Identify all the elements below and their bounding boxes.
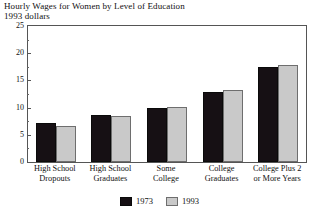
bar-group [250, 26, 306, 162]
legend-item-1973[interactable]: 1973 [120, 197, 153, 206]
legend-label: 1973 [136, 197, 153, 206]
bar-1993-1 [56, 126, 76, 162]
y-axis-tick-label: 5 [0, 131, 24, 139]
y-axis-tick-label: 25 [0, 22, 24, 30]
bar-group [139, 26, 195, 162]
bar-1973-3 [147, 108, 167, 162]
bar-group [195, 26, 251, 162]
x-axis-label-line: or More Years [243, 174, 311, 184]
y-axis-tick-label: 10 [0, 104, 24, 112]
bar-group [28, 26, 84, 162]
black-swatch [120, 197, 132, 206]
legend-item-1993[interactable]: 1993 [166, 197, 199, 206]
bar-1993-3 [167, 107, 187, 162]
page-title: Hourly Wages for Women by Level of Educa… [4, 1, 185, 11]
y-axis-tick-label: 20 [0, 49, 24, 57]
chart-figure: Hourly Wages for Women by Level of Educa… [0, 0, 319, 215]
bar-1993-2 [111, 116, 131, 162]
chart-legend: 19731993 [0, 193, 319, 209]
legend-label: 1993 [182, 197, 199, 206]
bar-1993-5 [278, 65, 298, 162]
chart-title-block: Hourly Wages for Women by Level of Educa… [4, 1, 185, 21]
bar-1973-5 [258, 67, 278, 162]
x-axis-label-5: College Plus 2or More Years [243, 164, 311, 183]
gray-swatch [166, 197, 178, 206]
y-axis-tick-label: 15 [0, 76, 24, 84]
bar-group [84, 26, 140, 162]
chart-subtitle: 1993 dollars [4, 11, 185, 21]
bars-layer [28, 26, 306, 162]
bar-1973-2 [91, 115, 111, 162]
bar-1973-1 [36, 123, 56, 162]
bar-1973-4 [203, 92, 223, 162]
bar-1993-4 [223, 90, 243, 162]
x-axis-label-line: College Plus 2 [243, 164, 311, 174]
x-axis-category-labels: High SchoolDropoutsHigh SchoolGraduatesS… [27, 164, 307, 188]
y-axis-labels: 0510152025 [0, 18, 24, 170]
